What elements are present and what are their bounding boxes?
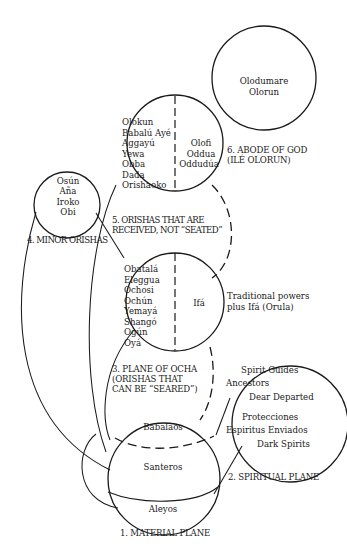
minor-member: Iroko <box>56 197 79 207</box>
received-members-right: Olofi Oddua Oddudúa <box>179 138 219 169</box>
material-member: Babalaos <box>143 422 183 432</box>
ocha-plane-label: (ORISHAS THAT <box>112 374 183 384</box>
material-plane-circle <box>108 423 220 535</box>
minor-member: Aña <box>59 186 77 196</box>
ocha-member-ifa: Ifá <box>193 298 205 308</box>
ocha-side-note: plus Ifá (Orula) <box>227 302 294 312</box>
received-members-left: Olokun Babalú Ayé Aggayú Yewa Obba Dada … <box>121 117 171 190</box>
ocha-member: Eleggua <box>124 275 160 285</box>
minor-member: Obi <box>60 207 76 217</box>
received-member: Olofi <box>191 138 212 148</box>
received-member: Oddua <box>187 149 216 159</box>
ocha-member: Shangó <box>124 317 157 327</box>
ocha-member: Yemayá <box>123 306 157 316</box>
god-plane-label: (ILÉ OLORUN) <box>227 154 290 165</box>
material-member: Santeros <box>144 462 183 472</box>
spiritual-connector-2 <box>214 446 242 494</box>
material-member: Aleyos <box>148 504 177 514</box>
god-member: Olodumare <box>240 76 288 86</box>
ocha-plane-label: CAN BE “SEARED”) <box>112 384 197 394</box>
ocha-member: Ochosi <box>124 285 154 295</box>
santeria-planes-diagram: Olodumare Olorun 6. ABODE OF GOD (ILÉ OL… <box>0 0 347 559</box>
spiritual-member: Dear Departed <box>249 392 314 402</box>
received-member: Dada <box>122 170 145 180</box>
minor-plane-label: 4. MINOR ORISHAS <box>27 235 108 245</box>
material-left-lobe <box>82 434 118 508</box>
santeros-aleyos-divider <box>108 487 218 501</box>
material-plane-label: 1. MATERIAL PLANE <box>120 528 210 538</box>
ocha-envelope-right-arc <box>200 347 213 420</box>
spiritual-member: Spirit Guides <box>241 365 298 375</box>
ocha-member: Obatalá <box>124 264 158 274</box>
received-plane-label: RECEIVED, NOT “SEATED” <box>112 225 222 235</box>
spiritual-member: Dark Spirits <box>257 439 310 449</box>
received-plane-label: 5. ORISHAS THAT ARE <box>112 215 204 225</box>
minor-member: Osún <box>57 176 80 186</box>
ocha-plane-label: 3. PLANE OF OCHA <box>112 364 198 374</box>
received-member: Oddudúa <box>179 159 219 169</box>
ocha-member: Ochún <box>124 296 153 306</box>
spiritual-member: Ancestors <box>225 378 269 388</box>
ocha-member: Ogún <box>124 327 148 337</box>
received-member: Yewa <box>121 149 145 159</box>
ocha-side-note: Traditional powers <box>227 291 309 301</box>
spiritual-member: Protecciones <box>242 412 298 422</box>
spiritual-plane-label: 2. SPIRITUAL PLANE <box>228 472 319 482</box>
received-member: Obba <box>122 159 145 169</box>
ocha-member: Oyá <box>124 338 141 348</box>
god-plane-label: 6. ABODE OF GOD <box>227 145 307 155</box>
spiritual-member: Espiritus Enviados <box>226 425 308 435</box>
received-member: Aggayú <box>121 138 155 148</box>
received-member: Babalú Ayé <box>122 128 171 138</box>
babalaos-santeros-divider <box>115 436 214 448</box>
received-member: Orishaoko <box>122 180 167 190</box>
god-member: Olorun <box>249 87 280 97</box>
ocha-members-left: Obatalá Eleggua Ochosi Ochún Yemayá Shan… <box>123 264 160 348</box>
received-member: Olokun <box>122 117 154 127</box>
